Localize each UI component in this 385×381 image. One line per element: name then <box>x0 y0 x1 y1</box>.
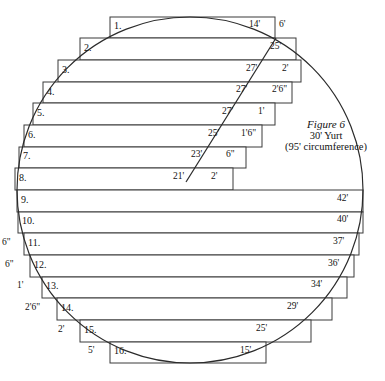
figure-caption: Figure 6 30' Yurt (95' circumference) <box>270 118 382 152</box>
strip-length-5: 27' <box>222 107 233 117</box>
strip-number-10: 10. <box>22 216 35 226</box>
left-offset-11: 6" <box>2 238 11 248</box>
strip-number-15: 15. <box>84 325 97 335</box>
strip-number-3: 3. <box>62 65 70 75</box>
strip-number-5: 5. <box>37 108 45 118</box>
strip-4 <box>43 82 292 103</box>
strip-number-14: 14. <box>61 303 74 313</box>
left-offset-12: 6" <box>5 260 14 270</box>
strip-9 <box>17 190 363 212</box>
right-offset-6: 1'6" <box>241 129 256 139</box>
strip-length-3: 27' <box>246 64 257 74</box>
strip-number-11: 11. <box>28 238 40 248</box>
strip-number-8: 8. <box>19 173 27 183</box>
strip-length-4: 27' <box>236 85 247 95</box>
strip-length-16: 15' <box>240 346 251 356</box>
strip-number-6: 6. <box>28 130 36 140</box>
strip-number-13: 13. <box>46 281 59 291</box>
strip-5 <box>33 103 275 125</box>
strip-length-1: 14' <box>249 20 260 30</box>
strip-2 <box>80 38 296 60</box>
strip-6 <box>24 125 262 147</box>
strip-number-16: 16. <box>114 346 127 356</box>
strip-number-9: 9. <box>21 195 29 205</box>
strip-7 <box>19 147 246 168</box>
strip-length-14: 29' <box>287 302 298 312</box>
left-offset-16: 5' <box>88 346 94 356</box>
strip-number-2: 2. <box>84 43 92 53</box>
strip-10 <box>18 212 363 233</box>
strip-length-10: 40' <box>337 215 348 225</box>
strip-length-2: 25' <box>270 42 281 52</box>
left-offset-15: 2' <box>58 325 64 335</box>
strip-length-12: 36' <box>328 259 339 269</box>
strip-15 <box>80 320 311 342</box>
strip-length-9: 42' <box>337 194 348 204</box>
right-offset-5: 1' <box>258 107 264 117</box>
strip-8 <box>15 168 233 190</box>
right-offset-3: 2' <box>282 64 288 74</box>
strip-length-13: 34' <box>311 280 322 290</box>
strip-length-6: 25' <box>208 129 219 139</box>
strip-length-7: 23' <box>191 150 202 160</box>
strip-3 <box>58 60 301 82</box>
strip-number-4: 4. <box>47 87 55 97</box>
caption-circumference: (95' circumference) <box>270 141 382 152</box>
left-offset-13: 1' <box>17 281 23 291</box>
left-offset-14: 2'6" <box>25 303 40 313</box>
right-offset-7: 6" <box>226 150 235 160</box>
caption-title: Figure 6 <box>270 118 382 130</box>
strip-number-7: 7. <box>23 151 31 161</box>
strip-13 <box>42 277 347 298</box>
right-offset-4: 2'6" <box>272 85 287 95</box>
strip-number-1: 1. <box>114 21 122 31</box>
strip-length-8: 21' <box>173 172 184 182</box>
right-offset-8: 2' <box>211 172 217 182</box>
caption-subtitle: 30' Yurt <box>270 130 382 141</box>
strip-number-12: 12. <box>34 260 47 270</box>
strip-12 <box>30 255 354 277</box>
strip-11 <box>24 233 359 255</box>
figure-canvas: 1.14'6'2.25'3.27'2'4.27'2'6"5.27'1'6.25'… <box>0 0 385 381</box>
right-offset-1: 6' <box>279 20 285 30</box>
strip-length-15: 25' <box>256 324 267 334</box>
strip-length-11: 37' <box>333 237 344 247</box>
